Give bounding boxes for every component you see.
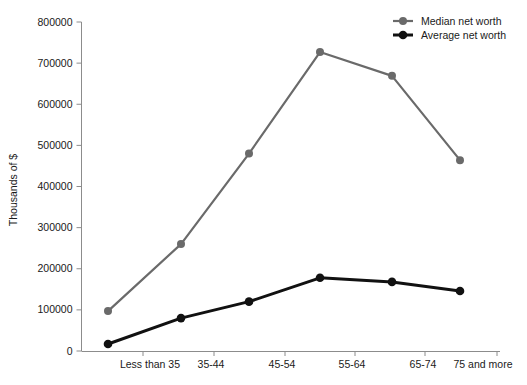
data-point-marker: [388, 278, 397, 287]
y-tick-label: 700000: [37, 57, 72, 69]
x-tick-label: 75 and more: [454, 358, 513, 370]
line-chart: 0100000200000300000400000500000600000700…: [0, 0, 527, 385]
y-tick-label: 500000: [37, 139, 72, 151]
series-line: [108, 278, 460, 344]
data-point-marker: [456, 287, 465, 296]
data-point-marker: [177, 240, 185, 248]
data-point-marker: [316, 273, 325, 282]
y-tick-label: 400000: [37, 180, 72, 192]
y-axis-ticks: 0100000200000300000400000500000600000700…: [37, 16, 81, 357]
chart-legend: Median net worthAverage net worth: [393, 15, 506, 41]
y-tick-label: 300000: [37, 221, 72, 233]
data-point-marker: [177, 314, 186, 323]
legend-item-label: Average net worth: [421, 29, 506, 41]
y-axis-title: Thousands of $: [7, 154, 19, 227]
legend-item-label: Median net worth: [421, 15, 502, 27]
data-point-marker: [388, 72, 396, 80]
data-point-marker: [104, 340, 113, 349]
x-tick-label: 55-64: [339, 358, 366, 370]
x-tick-label: Less than 35: [120, 358, 180, 370]
data-point-marker: [316, 48, 324, 56]
y-tick-label: 600000: [37, 98, 72, 110]
chart-container: 0100000200000300000400000500000600000700…: [0, 0, 527, 385]
legend-marker-dot: [399, 17, 407, 25]
x-tick-label: 45-54: [269, 358, 296, 370]
legend-marker-dot: [399, 31, 408, 40]
x-tick-label: 65-74: [410, 358, 437, 370]
x-tick-label: 35-44: [198, 358, 225, 370]
y-tick-label: 200000: [37, 262, 72, 274]
data-point-marker: [245, 150, 253, 158]
data-point-marker: [104, 307, 112, 315]
data-point-marker: [245, 297, 254, 306]
y-tick-label: 0: [67, 345, 73, 357]
series-layer: [104, 48, 465, 348]
data-point-marker: [456, 156, 464, 164]
y-tick-label: 800000: [37, 16, 72, 28]
x-axis-tick-labels: Less than 3535-4445-5455-6465-7475 and m…: [120, 358, 513, 370]
series-line: [108, 52, 460, 311]
y-tick-label: 100000: [37, 303, 72, 315]
